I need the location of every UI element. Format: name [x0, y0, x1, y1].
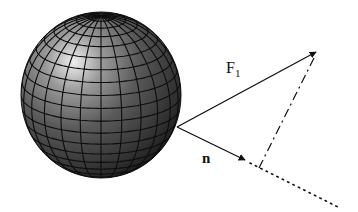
force-vector-f1: [177, 52, 316, 127]
force-label-subscript: 1: [235, 67, 241, 79]
diagram-canvas: F1 n: [0, 0, 358, 212]
normal-label: n: [202, 150, 211, 166]
force-label-main: F: [226, 59, 235, 76]
force-label: F1: [226, 59, 240, 79]
normal-extension-dotted-line: [250, 163, 338, 207]
normal-vector-n: [177, 127, 245, 160]
projection-dashed-line: [259, 58, 314, 168]
sphere: [21, 12, 181, 178]
